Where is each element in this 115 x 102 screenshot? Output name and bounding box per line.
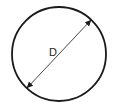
diameter-line [27,20,91,88]
diameter-label: D [49,46,57,58]
circle-diameter-diagram: D [0,0,115,102]
